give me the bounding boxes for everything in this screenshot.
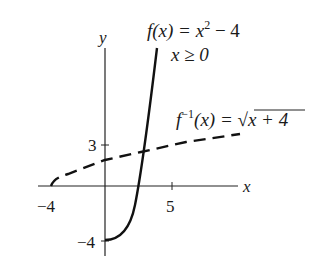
domain-label: x ≥ 0 — [170, 44, 209, 65]
f-curve — [105, 48, 157, 240]
finv-label: f−1(x) = √x + 4 — [176, 107, 289, 131]
finv-label-mid: (x) = — [194, 109, 237, 131]
x-tick-label-neg4: −4 — [37, 197, 56, 216]
function-inverse-graph: x y −4 5 3 −4 f(x) = x2 − 4 x ≥ 0 f−1(x)… — [0, 0, 321, 270]
f-label: f(x) = x2 − 4 — [147, 18, 240, 42]
finv-label-radicand: x + 4 — [247, 109, 289, 130]
finv-label-radical: √ — [237, 109, 248, 130]
f-label-lhs: f(x) = x — [147, 20, 205, 42]
y-tick-label-neg4: −4 — [77, 233, 96, 252]
x-axis-label: x — [242, 177, 251, 196]
x-tick-label-5: 5 — [166, 197, 175, 216]
f-label-rhs: − 4 — [210, 20, 240, 41]
y-tick-label-3: 3 — [88, 136, 97, 155]
y-axis-label: y — [97, 28, 107, 47]
finv-label-exp: −1 — [181, 107, 194, 121]
